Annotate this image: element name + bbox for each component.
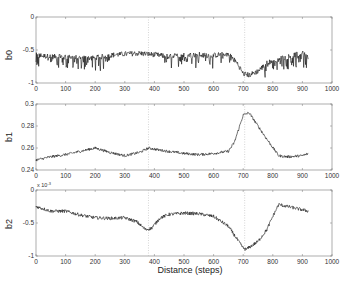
x-tick-label: 100 xyxy=(60,172,71,179)
x-tick-label: 400 xyxy=(149,172,160,179)
y-tick-label: 0.24 xyxy=(21,166,34,173)
axes-b1: 010020030040050060070080090010000.30.280… xyxy=(21,100,339,179)
x-tick-label: 700 xyxy=(238,172,249,179)
x-tick-label: 300 xyxy=(119,258,130,265)
x-tick-label: 0 xyxy=(34,85,38,92)
x-tick-label: 800 xyxy=(267,85,278,92)
x-tick-label: 200 xyxy=(90,258,101,265)
x-tick-label: 600 xyxy=(208,258,219,265)
axes-b2: 010020030040050060070080090010000-0.5-1 xyxy=(23,186,340,265)
x-tick-label: 0 xyxy=(34,172,38,179)
x-tick-label: 200 xyxy=(90,85,101,92)
y-tick-label: 0.3 xyxy=(25,100,34,107)
figure: 010020030040050060070080090010000-0.5-1 … xyxy=(0,0,351,286)
x-tick-label: 900 xyxy=(297,258,308,265)
x-tick-label: 900 xyxy=(297,172,308,179)
y-tick-label: -0.5 xyxy=(23,46,35,53)
x-tick-label: 900 xyxy=(297,85,308,92)
x-tick-label: 200 xyxy=(90,172,101,179)
x-tick-label: 800 xyxy=(267,258,278,265)
axes-frame xyxy=(36,17,332,83)
x-tick-label: 600 xyxy=(208,172,219,179)
x-axis-label: Distance (steps) xyxy=(157,265,222,275)
x-tick-label: 0 xyxy=(34,258,38,265)
y-label-b0: b0 xyxy=(4,50,14,60)
x-tick-label: 500 xyxy=(179,172,190,179)
y-tick-label: -0.5 xyxy=(23,219,35,226)
x-tick-label: 700 xyxy=(238,258,249,265)
x-tick-label: 500 xyxy=(179,85,190,92)
x-tick-label: 600 xyxy=(208,85,219,92)
y-tick-label: 0 xyxy=(30,186,34,193)
y-tick-label: -1 xyxy=(28,79,34,86)
x-tick-label: 400 xyxy=(149,85,160,92)
x-tick-label: 300 xyxy=(119,85,130,92)
axes-b0: 010020030040050060070080090010000-0.5-1 xyxy=(23,13,340,92)
x-tick-label: 500 xyxy=(179,258,190,265)
x-tick-label: 700 xyxy=(238,85,249,92)
x-tick-label: 100 xyxy=(60,85,71,92)
y-tick-label: 0 xyxy=(30,13,34,20)
x-tick-label: 1000 xyxy=(325,258,340,265)
x-tick-label: 1000 xyxy=(325,172,340,179)
y-exponent-b2: x 10-3 xyxy=(37,181,52,189)
axes-frame xyxy=(36,190,332,256)
y-tick-label: -1 xyxy=(28,252,34,259)
x-tick-label: 800 xyxy=(267,172,278,179)
y-label-b1: b1 xyxy=(4,132,14,142)
axes-frame xyxy=(36,104,332,170)
y-tick-label: 0.26 xyxy=(21,144,34,151)
x-tick-label: 100 xyxy=(60,258,71,265)
x-tick-label: 1000 xyxy=(325,85,340,92)
x-tick-label: 300 xyxy=(119,172,130,179)
y-tick-label: 0.28 xyxy=(21,122,34,129)
y-label-b2: b2 xyxy=(4,219,14,229)
x-tick-label: 400 xyxy=(149,258,160,265)
